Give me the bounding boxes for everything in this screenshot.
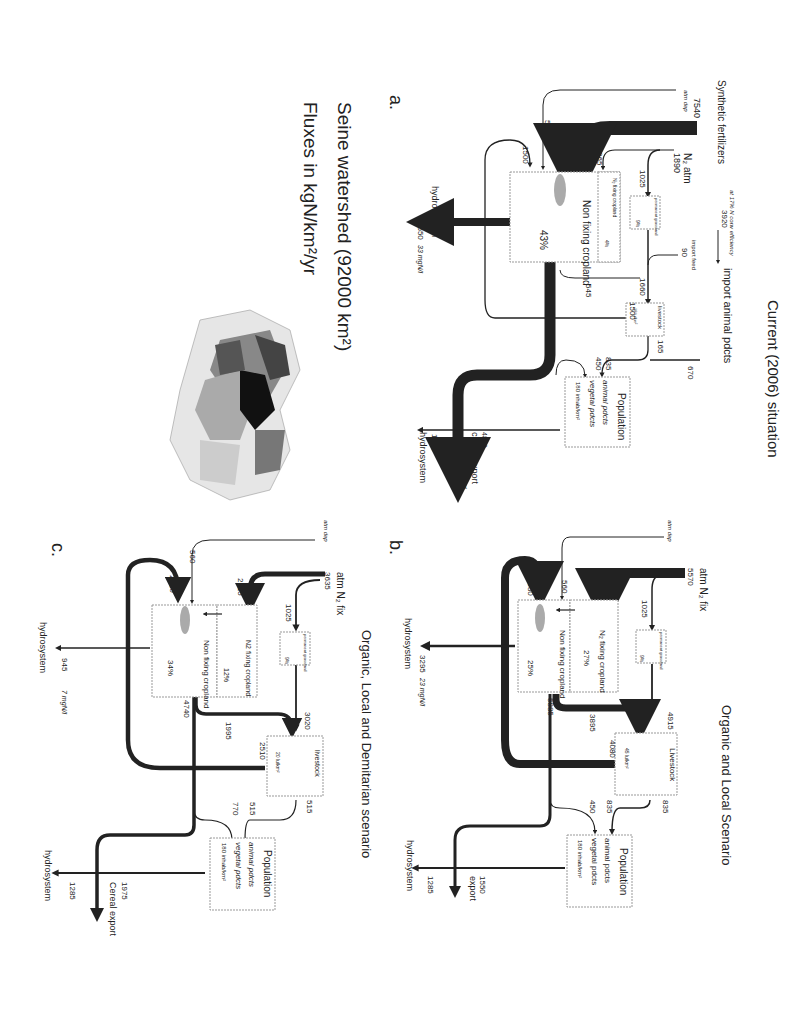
animal-pdcts-c: animal pdcts (247, 842, 256, 887)
export-label-c: Cereal export (108, 882, 118, 937)
watershed-title-group: Seine watershed (92000 km²) Fluxes in kg… (300, 102, 355, 351)
cropland-conc-a: 33 mgN/l (416, 245, 424, 273)
flow-cropland-to-livestock-a: 545 (584, 284, 593, 298)
n2-atm-label: N₂ atm (682, 153, 693, 184)
flow-import-animal-a: 670 (686, 366, 695, 380)
cropland-pct-b: 25% (526, 660, 535, 676)
flow-livestock-manure-a: 1500 (628, 302, 637, 320)
cropland-label-a: Non fixing cropland (581, 200, 592, 286)
inhab-c: 180 inhab/km² (221, 843, 227, 881)
livestock-label-b: Livestock (668, 748, 677, 782)
cropland-hydro-b: 3295 (418, 655, 427, 673)
inhab-a: 180 inhab/km² (575, 382, 581, 420)
fixing-cropland-box-b (570, 600, 618, 692)
hydrosystem-label-b1: hydrosystem (403, 618, 413, 669)
hydrosystem-label-c2: hydrosystem (43, 850, 53, 901)
fixing-cropland-label-a: N₂ fixing cropland (612, 178, 618, 217)
flow-cropland-out-a: 5815 (546, 265, 555, 283)
wheat-icon (554, 174, 566, 206)
export-value-a: 4820 (481, 432, 488, 448)
grassland-label-a: permanent grassland (654, 198, 659, 236)
livestock-label-c: livestock (314, 750, 321, 777)
vegetal-pdcts-a: vegetal pdcts (588, 380, 597, 427)
cropland-pct-a: 43% (538, 230, 549, 250)
flow-fert-to-cropland: 7540 (558, 148, 567, 166)
panel-b-letter: b. (386, 540, 406, 555)
flow-pop-animal-c: 515 (248, 802, 257, 816)
population-label-b: Population (618, 848, 629, 895)
watershed-title: Seine watershed (92000 km²) (334, 102, 355, 351)
flow-fix-to-cropland-a: 865 (595, 152, 604, 166)
flow-pop-animal-a: 835 (604, 357, 613, 371)
grassland-pct-c: 9% (284, 657, 290, 665)
vegetal-pdcts-c: vegetal pdcts (234, 842, 243, 889)
seine-watershed-map (170, 310, 300, 500)
export-value-c: 1975 (120, 882, 129, 900)
cropland-hydro-a: 4650 (416, 222, 425, 240)
wheat-icon (535, 604, 545, 632)
flow-fix-to-fixing-c: 2615 (236, 578, 245, 596)
population-label-c: Population (262, 850, 273, 897)
flow-manure-to-cropland-a: 1500 (521, 146, 530, 164)
hydrosystem-label-a2: hydrosystem (418, 432, 428, 483)
hydrosystem-label-b2: hydrosystem (405, 840, 415, 891)
flow-cropland-out-b: 5885 (546, 698, 555, 716)
population-label-a: Population (616, 393, 627, 440)
flow-atm-dep-a: 560 (543, 120, 552, 134)
flow-livestock-to-pop-c: 515 (305, 800, 314, 814)
export-value-b: 1550 (478, 876, 487, 894)
flow-livestock-manure-b: 4080 (608, 740, 617, 758)
flow-grassland-to-livestock-b: 4915 (666, 712, 675, 730)
fix-value-b: 5570 (686, 568, 695, 586)
flow-grassland-to-livestock-c: 3020 (303, 712, 312, 730)
net-export-a: 810 net export (460, 444, 468, 490)
flow-grassland-to-livestock-a: 1660 (638, 278, 647, 296)
cropland-label-b: Non fixing cropland (558, 630, 567, 698)
flow-livestock-to-pop-a: 165 (656, 340, 665, 354)
fixing-cropland-label-c: N2 fixing cropland (244, 640, 252, 696)
n2-atm-value: 1890 (672, 153, 682, 173)
figure-canvas: Seine watershed (92000 km²) Fluxes in kg… (0, 0, 796, 1014)
wheat-icon (180, 606, 190, 634)
flow-pop-vegetal-b: 450 (588, 800, 597, 814)
panel-a-import-label: import animal pdcts (722, 268, 734, 364)
flow-cropland-to-livestock-c: 1995 (224, 722, 233, 740)
fixing-cropland-pct-a: 4% (604, 240, 610, 248)
grassland-label-b: permanent grassland (659, 632, 664, 670)
inhab-b: 180 inhab/km² (577, 840, 583, 878)
vegetal-pdcts-b: vegetal pdcts (590, 838, 599, 885)
fix-label-c: atm N₂ fix (335, 572, 346, 615)
livestock-density-c: 20 lu/km² (275, 752, 281, 773)
cropland-hydro-c: 945 (60, 658, 69, 672)
import-feed-label: import feed (691, 240, 697, 270)
pop-hydro-c: 1285 (68, 882, 77, 900)
hydrosystem-label-c1: hydrosystem (38, 622, 48, 673)
flow-pop-animal-b: 835 (605, 800, 614, 814)
panel-a-title: Current (2006) situation (765, 300, 782, 458)
export-label-b: export (468, 876, 478, 902)
fixing-cropland-pct-b: 27% (582, 650, 591, 666)
grassland-pct-b: 9% (639, 655, 645, 663)
fixing-cropland-pct-c: 12% (223, 668, 230, 682)
panel-b: b. Organic and Local Scenario atm dep at… (386, 520, 734, 907)
panel-c-title: Organic, Local and Demitarian scenario (359, 630, 374, 858)
panel-c: c. Organic, Local and Demitarian scenari… (38, 520, 374, 937)
flow-cropland-to-livestock-b: 3895 (588, 714, 597, 732)
export-label-a: cereal export (470, 432, 480, 485)
panel-c-letter: c. (48, 543, 68, 557)
flow-atm-dep-c: 560 (188, 550, 197, 564)
synthetic-fertilizers-value: 7540 (692, 98, 702, 118)
livestock-density-b: 45 lu/km² (624, 748, 630, 769)
panel-a-letter: a. (386, 95, 406, 110)
flow-fix-to-grassland-c: 1025 (284, 604, 293, 622)
units-title: Fluxes in kgN/km²/yr (300, 102, 321, 276)
panel-b-title: Organic and Local Scenario (719, 705, 734, 865)
flow-cropland-out-c: 4740 (182, 700, 191, 718)
cropland-pct-c: 34% (166, 660, 175, 676)
animal-pdcts-b: animal pdcts (603, 838, 612, 883)
panel-a: a. Current (2006) situation at 17% N con… (386, 80, 782, 490)
flow-manure-to-cropland-b: 4080 (526, 578, 535, 596)
fixing-cropland-label-b: N₂ fixing cropland (598, 630, 607, 693)
import-feed-value: 90 (680, 248, 689, 257)
atm-dep-label-a: atm dep (683, 90, 689, 112)
